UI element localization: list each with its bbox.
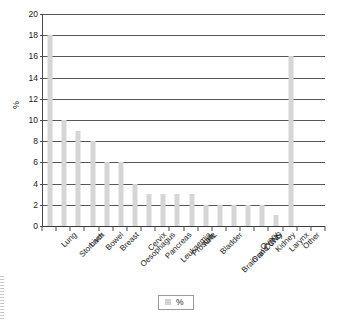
bar-slot [142, 14, 156, 226]
x-tick-mark [197, 226, 198, 231]
y-tick-label-14: 14 [29, 73, 38, 82]
x-tick-mark [84, 226, 85, 231]
bar[interactable] [118, 162, 123, 226]
x-tick-mark [282, 226, 283, 231]
bar-slot [213, 14, 227, 226]
x-tick-mark [126, 226, 127, 231]
bar-slot [227, 14, 241, 226]
y-tick-label-6: 6 [33, 158, 38, 167]
bar[interactable] [147, 194, 152, 226]
bar-chart: % 02468101214161820 LungStomachLiverBowe… [0, 0, 339, 325]
x-tick-mark [268, 226, 269, 231]
chart-legend: % [158, 295, 194, 310]
bar-slot [43, 14, 57, 226]
bar[interactable] [217, 205, 222, 226]
bar-slot [185, 14, 199, 226]
bar[interactable] [246, 205, 251, 226]
x-tick-mark [325, 226, 326, 231]
y-tick-label-18: 18 [29, 31, 38, 40]
bar-slot [255, 14, 269, 226]
bar[interactable] [132, 184, 137, 226]
x-tick-mark [56, 226, 57, 231]
y-tick-label-16: 16 [29, 52, 38, 61]
x-axis-label: Bladder [219, 231, 244, 256]
bar[interactable] [161, 194, 166, 226]
bar-slot [85, 14, 99, 226]
y-tick-label-20: 20 [29, 10, 38, 19]
y-tick-label-12: 12 [29, 95, 38, 104]
bar-slot [100, 14, 114, 226]
legend-label-percent: % [176, 298, 184, 307]
y-tick-label-8: 8 [33, 137, 38, 146]
x-tick-mark [42, 226, 43, 231]
bar-slot [269, 14, 283, 226]
bar[interactable] [189, 194, 194, 226]
x-tick-mark [183, 226, 184, 231]
bar[interactable] [76, 131, 81, 226]
bar[interactable] [203, 205, 208, 226]
bar-slot [156, 14, 170, 226]
y-tick-label-0: 0 [33, 222, 38, 231]
bar[interactable] [62, 120, 67, 226]
x-tick-mark [310, 226, 311, 231]
x-tick-mark [112, 226, 113, 231]
bar-slot [57, 14, 71, 226]
bar[interactable] [232, 205, 237, 226]
bar-slot [284, 14, 298, 226]
y-axis-title: % [11, 95, 21, 115]
x-tick-mark [141, 226, 142, 231]
bar[interactable] [175, 194, 180, 226]
bar-slot [170, 14, 184, 226]
bar[interactable] [90, 141, 95, 226]
bar[interactable] [288, 56, 293, 226]
x-axis-label: Lung [60, 231, 78, 249]
x-tick-mark [155, 226, 156, 231]
bar-series [43, 14, 325, 226]
bar-slot [128, 14, 142, 226]
plot-inner: 02468101214161820 [43, 14, 325, 226]
bar[interactable] [48, 35, 53, 226]
page-edge-artifact [0, 276, 4, 320]
y-tick-label-2: 2 [33, 201, 38, 210]
bar-slot [71, 14, 85, 226]
bar-slot [114, 14, 128, 226]
legend-swatch-percent [165, 299, 171, 305]
x-tick-mark [296, 226, 297, 231]
bar[interactable] [260, 205, 265, 226]
bar[interactable] [104, 162, 109, 226]
bar-slot [241, 14, 255, 226]
bar[interactable] [274, 215, 279, 226]
x-tick-mark [240, 226, 241, 231]
y-tick-label-4: 4 [33, 179, 38, 188]
x-axis-labels: LungStomachLiverBowelBreastOesophagusCer… [42, 231, 325, 291]
bar-slot [199, 14, 213, 226]
plot-area: 02468101214161820 [42, 14, 325, 226]
x-tick-mark [225, 226, 226, 231]
x-tick-mark [254, 226, 255, 231]
y-tick-label-10: 10 [29, 116, 38, 125]
